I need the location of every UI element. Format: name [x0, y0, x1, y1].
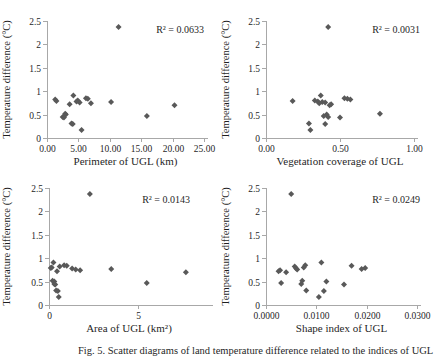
svg-text:2: 2 [255, 207, 260, 217]
svg-text:1.00: 1.00 [406, 144, 423, 154]
perimeter-scatter-plot: 00.511.522.50.005.0010.0015.0020.0025.00… [0, 0, 219, 177]
svg-text:0.5: 0.5 [31, 278, 43, 288]
svg-text:2.5: 2.5 [248, 184, 260, 194]
svg-text:0.00: 0.00 [39, 144, 56, 154]
svg-text:1: 1 [255, 254, 260, 264]
svg-text:0.0200: 0.0200 [354, 311, 380, 321]
vegetation-scatter-plot: 00.511.522.50.000.501.00R² = 0.0031Veget… [219, 0, 438, 177]
svg-text:Vegetation coverage of UGL: Vegetation coverage of UGL [277, 155, 404, 167]
svg-text:Perimeter of UGL (km): Perimeter of UGL (km) [74, 155, 178, 168]
svg-text:0.5: 0.5 [29, 111, 41, 121]
svg-text:R² = 0.0143: R² = 0.0143 [142, 194, 190, 205]
area-scatter-plot: 00.511.522.505R² = 0.0143Area of UGL (km… [0, 177, 219, 354]
svg-text:1.5: 1.5 [31, 231, 43, 241]
svg-text:1: 1 [38, 254, 43, 264]
svg-text:1.5: 1.5 [248, 64, 260, 74]
shape-index-scatter-plot: 00.511.522.50.00000.01000.02000.0300R² =… [219, 177, 438, 354]
svg-text:0: 0 [38, 301, 43, 311]
svg-text:0: 0 [36, 134, 41, 144]
svg-text:0: 0 [255, 301, 260, 311]
svg-text:Shape index of UGL: Shape index of UGL [296, 322, 388, 334]
svg-text:0: 0 [47, 311, 52, 321]
svg-text:15.00: 15.00 [131, 144, 153, 154]
svg-text:2.5: 2.5 [248, 17, 260, 27]
svg-text:1: 1 [255, 87, 260, 97]
svg-text:0.0300: 0.0300 [404, 311, 430, 321]
svg-text:0.5: 0.5 [248, 111, 260, 121]
svg-text:0.0000: 0.0000 [253, 311, 279, 321]
scatter-panel-shape-index: 00.511.522.50.00000.01000.02000.0300R² =… [219, 177, 438, 354]
scatter-panel-perimeter: 00.511.522.50.005.0010.0015.0020.0025.00… [0, 0, 219, 177]
svg-text:25.00: 25.00 [194, 144, 216, 154]
svg-text:Area of UGL (km²): Area of UGL (km²) [86, 322, 172, 335]
svg-text:Temperature difference (°C): Temperature difference (°C) [1, 20, 13, 139]
svg-text:2: 2 [38, 207, 43, 217]
svg-text:5: 5 [136, 311, 141, 321]
svg-text:0.0100: 0.0100 [303, 311, 329, 321]
svg-text:0.50: 0.50 [332, 144, 349, 154]
svg-text:2.5: 2.5 [29, 17, 41, 27]
svg-text:Temperature difference (°C): Temperature difference (°C) [220, 20, 232, 139]
scatter-panel-area: 00.511.522.505R² = 0.0143Area of UGL (km… [0, 177, 219, 354]
svg-text:10.00: 10.00 [100, 144, 122, 154]
svg-text:1.5: 1.5 [29, 64, 41, 74]
svg-text:5.00: 5.00 [70, 144, 87, 154]
svg-text:Temperature difference (°C): Temperature difference (°C) [220, 187, 232, 306]
svg-text:2: 2 [255, 40, 260, 50]
svg-text:2: 2 [36, 40, 41, 50]
svg-text:2.5: 2.5 [31, 184, 43, 194]
svg-text:R² = 0.0633: R² = 0.0633 [156, 24, 204, 35]
svg-text:1: 1 [36, 87, 41, 97]
svg-text:0.00: 0.00 [258, 144, 275, 154]
svg-text:Temperature difference (°C): Temperature difference (°C) [1, 187, 13, 306]
svg-text:0.5: 0.5 [248, 278, 260, 288]
svg-text:0: 0 [255, 134, 260, 144]
scatter-panel-vegetation: 00.511.522.50.000.501.00R² = 0.0031Veget… [219, 0, 438, 177]
svg-text:R² = 0.0031: R² = 0.0031 [372, 24, 420, 35]
svg-text:1.5: 1.5 [248, 231, 260, 241]
figure-caption: Fig. 5. Scatter diagrams of land tempera… [78, 345, 433, 356]
svg-text:20.00: 20.00 [163, 144, 185, 154]
svg-text:R² = 0.0249: R² = 0.0249 [372, 194, 420, 205]
